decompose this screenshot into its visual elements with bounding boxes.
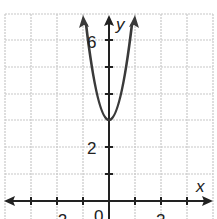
- y-axis-label: y: [115, 15, 126, 34]
- arrow-right-icon: [129, 15, 139, 28]
- origin-label: 0: [94, 207, 103, 219]
- tick-label-6: 6: [87, 33, 96, 52]
- arrow-left-icon: [79, 15, 89, 28]
- graph: y x 6 2 0 -2 2: [0, 0, 217, 219]
- tick-label-2: 2: [87, 139, 96, 158]
- x-axis-label: x: [195, 177, 205, 196]
- tick-label-neg2: -2: [52, 211, 67, 219]
- tick-label-pos2: 2: [156, 211, 165, 219]
